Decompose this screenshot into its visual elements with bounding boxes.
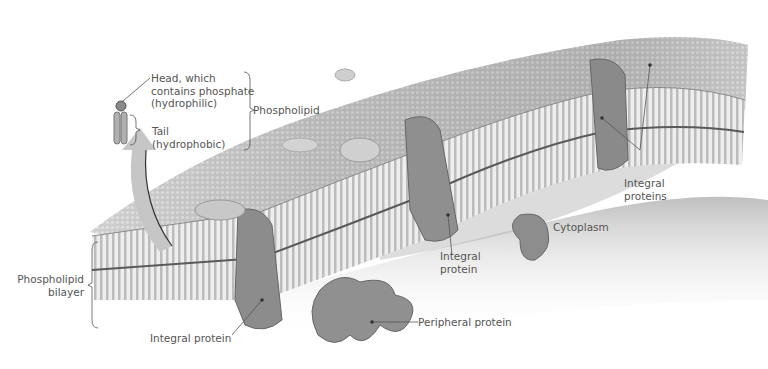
label-head-line3: (hydrophilic) (151, 97, 254, 110)
label-integral-protein-left: Integral protein (150, 332, 231, 345)
label-integral-center-line1: Integral (440, 250, 481, 263)
label-cytoplasm-text: Cytoplasm (553, 221, 609, 234)
label-integral-proteins-right: Integral proteins (624, 177, 667, 202)
label-integral-right-line2: proteins (624, 190, 667, 203)
label-phospholipid-text: Phospholipid (253, 104, 320, 117)
label-integral-protein-left-text: Integral protein (150, 332, 231, 345)
label-tail-line2: (hydrophobic) (152, 138, 225, 151)
label-bilayer-line2: bilayer (12, 286, 84, 299)
label-peripheral-protein: Peripheral protein (418, 316, 512, 329)
label-integral-center-line2: protein (440, 263, 481, 276)
label-tail-line1: Tail (152, 125, 225, 138)
label-integral-right-line1: Integral (624, 177, 667, 190)
label-head: Head, which contains phosphate (hydrophi… (151, 72, 254, 110)
label-bilayer-line1: Phospholipid (12, 273, 84, 286)
label-integral-protein-center: Integral protein (440, 250, 481, 275)
label-peripheral-protein-text: Peripheral protein (418, 316, 512, 329)
label-phospholipid: Phospholipid (253, 104, 320, 117)
label-cytoplasm: Cytoplasm (553, 221, 609, 234)
label-tail: Tail (hydrophobic) (152, 125, 225, 150)
phospholipid-molecule (114, 101, 127, 144)
label-phospholipid-bilayer: Phospholipid bilayer (12, 273, 84, 298)
label-head-line1: Head, which (151, 72, 254, 85)
label-head-line2: contains phosphate (151, 85, 254, 98)
